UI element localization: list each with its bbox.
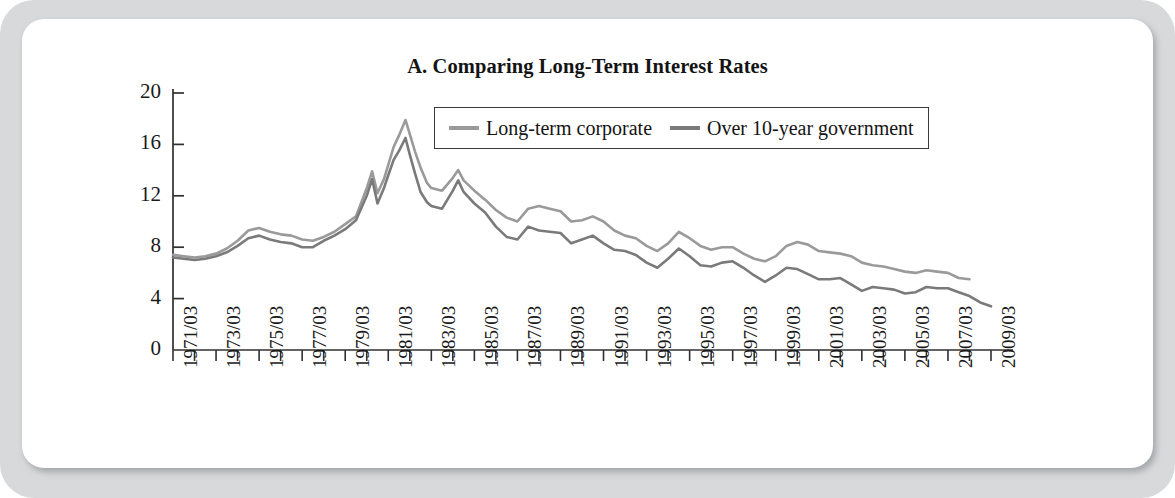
x-axis-tick-label: 1981/03: [395, 306, 417, 368]
chart-svg: [22, 19, 1153, 468]
x-axis-tick-label: 1987/03: [524, 306, 546, 368]
y-axis-tick-label: 4: [121, 285, 161, 310]
x-axis-tick-label: 1999/03: [783, 306, 805, 368]
x-axis-tick-label: 1995/03: [697, 306, 719, 368]
series-line-over-10-year-government: [173, 138, 991, 306]
x-axis-tick-label: 1985/03: [481, 306, 503, 368]
x-axis-tick-label: 2009/03: [998, 306, 1020, 368]
x-axis-tick-label: 1983/03: [438, 306, 460, 368]
y-axis-tick-label: 20: [121, 79, 161, 104]
y-axis-tick-label: 8: [121, 233, 161, 258]
x-axis-tick-label: 1977/03: [309, 306, 331, 368]
legend-label: Over 10-year government: [707, 117, 914, 140]
x-axis-tick-label: 2007/03: [955, 306, 977, 368]
x-axis-tick-label: 1971/03: [180, 306, 202, 368]
y-axis-tick-label: 0: [121, 336, 161, 361]
legend-line-swatch: [449, 126, 479, 129]
x-axis-tick-label: 1993/03: [654, 306, 676, 368]
x-axis-tick-label: 2005/03: [912, 306, 934, 368]
legend-line-swatch: [670, 126, 700, 129]
x-axis-tick-label: 2003/03: [869, 306, 891, 368]
x-axis-tick-label: 1979/03: [352, 306, 374, 368]
figure-outer-frame: A. Comparing Long-Term Interest Rates 04…: [0, 0, 1175, 498]
legend-entry: Long-term corporate: [449, 117, 652, 140]
x-axis-tick-label: 1989/03: [567, 306, 589, 368]
figure-card: A. Comparing Long-Term Interest Rates 04…: [22, 19, 1153, 468]
x-axis-tick-label: 1991/03: [611, 306, 633, 368]
legend-entry: Over 10-year government: [670, 117, 914, 140]
chart-plot-area: 0481216201971/031973/031975/031977/03197…: [22, 19, 1153, 468]
x-axis-tick-label: 1997/03: [740, 306, 762, 368]
y-axis-tick-label: 12: [121, 182, 161, 207]
x-axis-tick-label: 1973/03: [223, 306, 245, 368]
y-axis-tick-label: 16: [121, 130, 161, 155]
chart-legend: Long-term corporateOver 10-year governme…: [434, 107, 929, 149]
x-axis-tick-label: 2001/03: [826, 306, 848, 368]
x-axis-tick-label: 1975/03: [266, 306, 288, 368]
legend-label: Long-term corporate: [486, 117, 652, 140]
